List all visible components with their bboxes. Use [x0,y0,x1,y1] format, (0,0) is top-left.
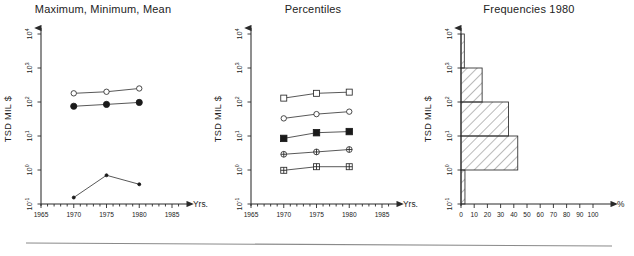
y-tick-label: 103 [234,62,244,73]
x-tick-label: 10 [471,211,479,218]
x-axis-name: Yrs. [193,199,208,209]
y-axis-title: TSD MIL $ [213,96,223,142]
x-tick-label: 1985 [375,211,390,218]
x-tick-label: 1970 [66,211,81,218]
y-tick-label: 10-1 [24,197,34,210]
y-tick-label: 101 [24,130,34,141]
x-tick-label: 1970 [276,211,291,218]
y-tick-label: 10-1 [234,197,244,210]
marker-small-dot [105,174,108,177]
y-tick-label: 102 [444,96,454,107]
y-tick-label: 100 [444,164,454,175]
marker-open-square [314,90,320,96]
y-tick-label: 10-1 [444,197,454,210]
panel-frequencies-1980: Frequencies 198010-1100101102103104TSD M… [423,3,625,218]
marker-filled-circle [103,101,109,107]
y-tick-label: 104 [24,28,34,39]
series-line-2 [74,175,140,197]
x-tick-label: 40 [510,211,518,218]
x-tick-label: 90 [576,211,584,218]
x-tick-label: 0 [459,211,463,218]
marker-small-dot [72,196,75,199]
x-tick-label: 80 [563,211,571,218]
y-tick-label: 104 [234,28,244,39]
x-tick-label: 30 [497,211,505,218]
x-tick-label: 70 [550,211,558,218]
histogram-bar [461,68,482,102]
histogram-bar [461,170,465,204]
x-tick-label: 60 [537,211,545,218]
y-axis-title: TSD MIL $ [3,96,13,142]
marker-open-square [346,89,352,95]
x-tick-label: 1980 [132,211,147,218]
y-tick-label: 102 [234,96,244,107]
footer-rule [26,243,612,246]
marker-filled-square [313,130,319,136]
marker-open-circle [281,116,286,121]
panel-maximum-minimum-mean: Maximum, Minimum, Mean10-110010110210310… [3,3,208,218]
x-tick-label: 1975 [99,211,114,218]
marker-filled-circle [136,99,142,105]
x-axis-name: % [617,199,625,209]
y-axis-title: TSD MIL $ [423,96,433,142]
three-panel-figure: Maximum, Minimum, Mean10-110010110210310… [0,0,634,256]
y-tick-label: 100 [234,164,244,175]
y-tick-label: 101 [444,130,454,141]
marker-filled-circle [71,103,77,109]
x-tick-label: 1965 [34,211,49,218]
panel-title: Maximum, Minimum, Mean [35,3,171,15]
marker-open-square [281,95,287,101]
histogram-bar [461,34,464,68]
panel-percentiles: Percentiles10-1100101102103104TSD MIL $1… [213,3,418,218]
x-tick-label: 1980 [342,211,357,218]
y-tick-label: 101 [234,130,244,141]
y-tick-label: 100 [24,164,34,175]
marker-open-circle [104,89,109,94]
panel-title: Percentiles [285,3,342,15]
y-tick-label: 103 [24,62,34,73]
marker-small-dot [138,183,141,186]
marker-open-circle [71,91,76,96]
y-tick-label: 103 [444,62,454,73]
marker-filled-square [346,128,352,134]
marker-filled-square [281,135,287,141]
marker-open-circle [314,111,319,116]
histogram-bar [461,136,518,170]
x-tick-label: 20 [484,211,492,218]
histogram-bar [461,102,509,136]
panel-title: Frequencies 1980 [483,3,574,15]
x-axis-name: Yrs. [403,199,418,209]
x-tick-label: 50 [523,211,531,218]
y-tick-label: 102 [24,96,34,107]
y-tick-label: 104 [444,28,454,39]
x-tick-label: 1975 [309,211,324,218]
x-tick-label: 100 [587,211,598,218]
marker-open-circle [347,109,352,114]
x-tick-label: 1965 [244,211,259,218]
x-tick-label: 1985 [165,211,180,218]
marker-open-circle [137,86,142,91]
